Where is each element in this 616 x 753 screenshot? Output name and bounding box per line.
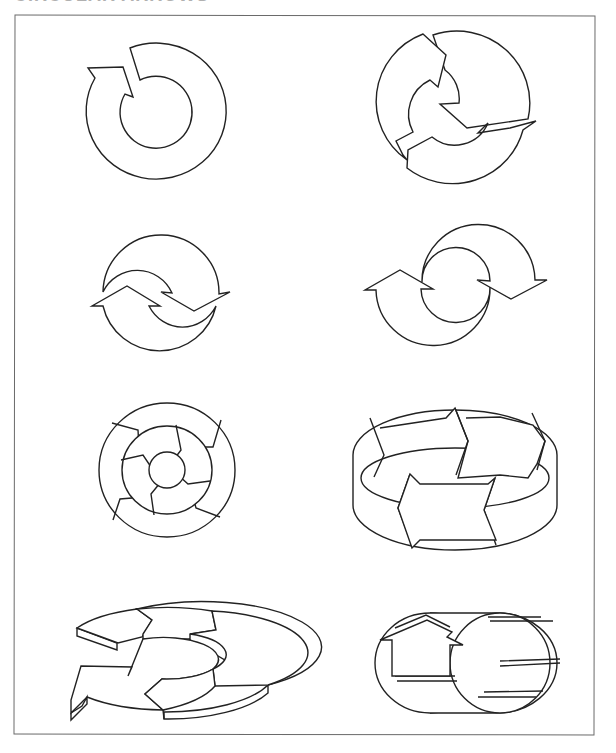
ribbon-band-arrows-icon — [353, 408, 557, 550]
interlocking-arrows-icon — [92, 235, 230, 351]
offset-circular-arrows-icon — [365, 225, 547, 346]
three-segment-arrows-icon — [376, 31, 536, 184]
flat-ring-arrow-icon — [71, 602, 322, 720]
cylinder-arrow-icon — [375, 613, 560, 713]
diagram-canvas — [0, 0, 616, 753]
single-circular-arrow-icon — [86, 43, 226, 179]
concentric-ring-arrows-icon — [99, 403, 235, 537]
